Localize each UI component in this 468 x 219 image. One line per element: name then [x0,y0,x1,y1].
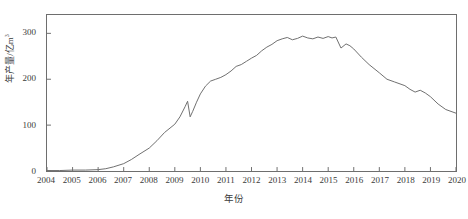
y-axis-ticks [47,33,51,171]
line-chart-svg [47,15,456,171]
x-tick-label: 2019 [422,175,440,186]
y-tick-label: 300 [23,28,37,37]
x-tick-label: 2010 [191,175,209,186]
plot-area [46,14,457,172]
data-series-line [47,36,456,170]
y-axis-title-exponent: 3 [4,34,10,37]
x-tick-label: 2011 [217,175,235,186]
x-tick-label: 2009 [165,175,183,186]
x-axis: 2004200520062007200820092010201120122013… [0,175,468,191]
x-tick-label: 2016 [345,175,363,186]
figure-container: 年产量/亿m3 0100200300 200420052006200720082… [0,0,468,219]
x-tick-label: 2005 [63,175,81,186]
x-tick-label: 2015 [320,175,338,186]
x-tick-label: 2017 [371,175,389,186]
x-tick-label: 2012 [243,175,261,186]
x-tick-label: 2008 [140,175,158,186]
y-axis-title-text: 年产量/亿m [5,37,15,83]
y-tick-label: 100 [23,121,37,130]
y-axis-title: 年产量/亿m3 [2,23,15,95]
x-axis-title: 年份 [0,193,468,204]
figure-caption [0,208,468,219]
x-tick-label: 2013 [268,175,286,186]
x-tick-label: 2004 [37,175,55,186]
x-tick-label: 2020 [448,175,466,186]
x-tick-label: 2006 [88,175,106,186]
x-tick-label: 2018 [397,175,415,186]
y-tick-label: 200 [23,74,37,83]
x-tick-label: 2014 [294,175,312,186]
x-tick-label: 2007 [114,175,132,186]
